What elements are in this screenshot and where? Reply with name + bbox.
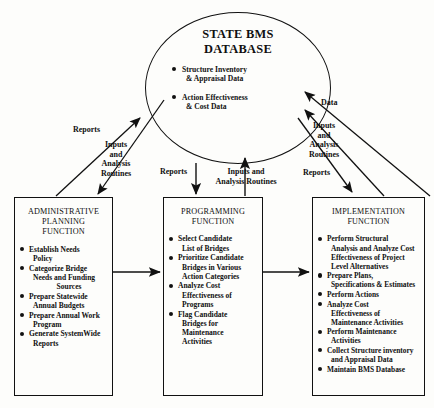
title-line: PLANNING — [18, 217, 109, 227]
item-line: Generate SystemWide — [29, 329, 100, 338]
bullet-line: Action Effectiveness — [182, 93, 248, 102]
label-left-inputs-analysis-routines: Inputs and Analysis Routines — [94, 140, 138, 178]
list-item: Analyze CostEffectiveness ofMaintenance … — [318, 300, 421, 327]
item-line: Level Alternatives — [327, 262, 421, 271]
item-line: Effectiveness of Project — [327, 253, 421, 262]
label-line: Analysis — [300, 140, 348, 150]
bullet-dot-icon — [172, 67, 176, 71]
bullet-dot-icon — [20, 247, 24, 251]
item-line: Perform Maintenance — [327, 327, 397, 336]
item-line: Prepare Plans, — [327, 271, 373, 280]
bullet-dot-icon — [318, 302, 322, 306]
title-line: FUNCTION — [167, 217, 259, 227]
list-item: Establish NeedsPolicy — [20, 245, 109, 263]
database-title: STATE BMS DATABASE — [155, 27, 321, 56]
label-line: Inputs and — [209, 167, 283, 177]
label-line: Analysis — [94, 159, 138, 169]
list-item: Flag CandidateBridges forMaintenanceActi… — [169, 310, 259, 347]
label-left-reports: Reports — [73, 125, 100, 135]
label-line: Routines — [94, 169, 138, 179]
label-right-reports: Reports — [303, 168, 330, 178]
bullet-dot-icon — [318, 330, 322, 334]
item-line: Reports — [29, 339, 109, 348]
bullet-dot-icon — [20, 313, 24, 317]
item-line: Perform Structural — [327, 234, 388, 243]
label-line: Routines — [300, 150, 348, 160]
item-line: Categorize Bridge — [29, 264, 87, 273]
bullet-line: Structure Inventory — [182, 65, 247, 74]
item-line: Prioritize Candidate — [178, 253, 244, 262]
item-line: Maintain BMS Database — [327, 365, 405, 374]
label-right-inputs-analysis-routines: Inputs and Analysis Routines — [300, 121, 348, 159]
item-line: Bridges for — [178, 319, 259, 328]
database-bullet-list: Structure Inventory & Appraisal Data Act… — [172, 65, 312, 121]
implementation-function-box: IMPLEMENTATION FUNCTION Perform Structur… — [312, 197, 425, 396]
bullet-dot-icon — [172, 95, 176, 99]
list-item: Generate SystemWideReports — [20, 329, 109, 347]
list-item: Categorize BridgeNeeds and FundingSource… — [20, 264, 109, 292]
administrative-planning-item-list: Establish NeedsPolicy Categorize BridgeN… — [15, 245, 112, 348]
label-center-inputs-analysis-routines: Inputs and Analysis Routines — [209, 167, 283, 186]
item-line: Flag Candidate — [178, 310, 227, 319]
item-line: Policy — [29, 254, 109, 263]
item-line: Programs — [178, 300, 259, 309]
bullet-dot-icon — [169, 284, 173, 288]
list-item: Prepare Plans,Specifications & Estimates — [318, 271, 421, 289]
list-item: Maintain BMS Database — [318, 365, 421, 374]
administrative-planning-function-box: ADMINISTRATIVE PLANNING FUNCTION Establi… — [14, 197, 113, 396]
label-line: Analysis Routines — [209, 177, 283, 187]
label-line: and — [94, 150, 138, 160]
item-line: Prepare Annual Work — [29, 311, 100, 320]
item-line: Establish Needs — [29, 245, 80, 254]
label-line: Inputs — [94, 140, 138, 150]
item-line: Needs and Funding — [29, 273, 109, 282]
programming-item-list: Select CandidateList of Bridges Prioriti… — [164, 234, 262, 346]
title-line: IMPLEMENTATION — [316, 207, 421, 217]
item-line: Analyze Cost — [327, 300, 369, 309]
bullet-dot-icon — [318, 273, 322, 277]
title-line: ADMINISTRATIVE — [18, 207, 109, 217]
item-line: and Appraisal Data — [327, 355, 421, 364]
bullet-line: & Appraisal Data — [182, 74, 312, 83]
box-title-implementation: IMPLEMENTATION FUNCTION — [316, 207, 421, 227]
item-line: Collect Structure inventory — [327, 346, 413, 355]
label-line: and — [300, 131, 348, 141]
bullet-dot-icon — [169, 312, 173, 316]
bullet-dot-icon — [169, 256, 173, 260]
list-item: Perform MaintenanceActivities — [318, 327, 421, 345]
bullet-line: & Cost Data — [182, 102, 312, 111]
list-item: Prioritize CandidateBridges in VariousAc… — [169, 253, 259, 281]
bullet-dot-icon — [318, 292, 322, 296]
database-bullet-action-effectiveness: Action Effectiveness & Cost Data — [172, 93, 312, 112]
database-bullet-structure-inventory: Structure Inventory & Appraisal Data — [172, 65, 312, 84]
list-item: Perform StructuralAnalysis and Analyze C… — [318, 234, 421, 270]
bullet-dot-icon — [20, 294, 24, 298]
bullet-dot-icon — [318, 348, 322, 352]
list-item: Perform Actions — [318, 290, 421, 299]
bullet-dot-icon — [20, 332, 24, 336]
list-item: Analyze CostEffectiveness ofPrograms — [169, 281, 259, 309]
list-item: Select CandidateList of Bridges — [169, 234, 259, 252]
item-line: Analyze Cost — [178, 281, 220, 290]
title-line: FUNCTION — [316, 217, 421, 227]
item-line: List of Bridges — [178, 244, 259, 253]
title-line: PROGRAMMING — [167, 207, 259, 217]
bullet-dot-icon — [20, 266, 24, 270]
item-line: Analysis and Analyze Cost — [327, 244, 421, 253]
bullet-dot-icon — [318, 367, 322, 371]
item-line: Effectiveness of — [327, 309, 421, 318]
box-title-programming: PROGRAMMING FUNCTION — [167, 207, 259, 227]
item-line: Action Categories — [178, 272, 259, 281]
item-line: Maintenance Activities — [327, 318, 421, 327]
list-item: Prepare Annual WorkProgram — [20, 311, 109, 329]
label-right-data: Data — [321, 98, 337, 108]
diagram-canvas: STATE BMS DATABASE Structure Inventory &… — [0, 0, 434, 408]
database-title-line1: STATE BMS — [155, 27, 321, 42]
item-line: Specifications & Estimates — [327, 280, 421, 289]
programming-function-box: PROGRAMMING FUNCTION Select CandidateLis… — [163, 197, 263, 396]
item-line: Sources — [29, 282, 109, 291]
list-item: Collect Structure inventoryand Appraisal… — [318, 346, 421, 364]
bullet-dot-icon — [169, 237, 173, 241]
list-item: Prepare StatewideAnnual Budgets — [20, 292, 109, 310]
item-line: Annual Budgets — [29, 301, 109, 310]
